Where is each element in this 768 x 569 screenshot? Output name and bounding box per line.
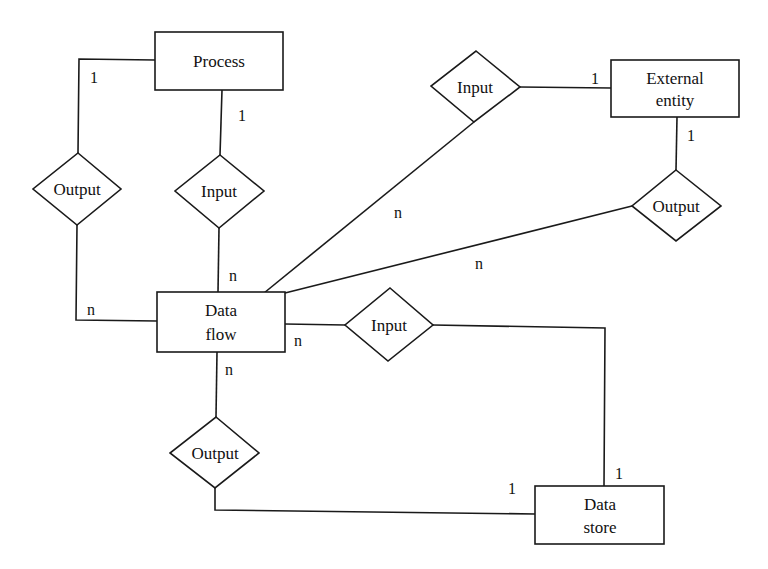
edges [76, 59, 677, 514]
cardinality-store-output-n: n [225, 361, 233, 378]
entity-label-line2: entity [656, 91, 695, 110]
cardinality-process-output-1: 1 [90, 69, 98, 86]
relationship-label: Input [371, 316, 407, 335]
relationship-store-output[interactable]: Output [170, 417, 259, 488]
cardinality-external-output-1: 1 [687, 127, 695, 144]
er-diagram: Process External entity Data flow Data s… [0, 0, 768, 569]
entity-label-line1: Data [584, 495, 617, 514]
entity-label-line2: flow [205, 325, 237, 344]
entity-data-flow[interactable]: Data flow [157, 292, 285, 352]
edge-input-mid-datastore [433, 325, 605, 486]
edge-dataflow-input-mid [285, 324, 345, 325]
cardinality-store-input-1: 1 [615, 465, 623, 482]
relationship-external-output[interactable]: Output [632, 170, 721, 241]
entity-external-entity[interactable]: External entity [611, 60, 739, 117]
relationship-label: Input [201, 182, 237, 201]
cardinality-process-input-1: 1 [238, 107, 246, 124]
relationship-process-input[interactable]: Input [175, 155, 264, 228]
relationship-label: Input [457, 78, 493, 97]
cardinality-external-input-n: n [394, 204, 402, 221]
entity-label: Process [193, 52, 245, 71]
relationship-label: Output [53, 180, 101, 199]
cardinality-store-output-1: 1 [508, 480, 516, 497]
cardinality-store-input-n: n [294, 332, 302, 349]
entity-label-line2: store [583, 518, 616, 537]
edge-external-output-right [676, 117, 677, 170]
cardinality-process-output-n: n [87, 301, 95, 318]
edge-external-input-top [520, 87, 611, 88]
relationship-label: Output [191, 444, 239, 463]
edge-dataflow-output-bottom [216, 352, 217, 417]
entity-label-line1: Data [205, 301, 238, 320]
entity-label-line1: External [646, 69, 704, 88]
relationship-store-input[interactable]: Input [345, 288, 433, 361]
edge-input-dataflow [218, 228, 219, 292]
relationship-external-input[interactable]: Input [431, 51, 520, 122]
entity-data-store[interactable]: Data store [535, 486, 664, 544]
relationship-label: Output [652, 197, 700, 216]
cardinality-process-input-n: n [229, 267, 237, 284]
entity-process[interactable]: Process [155, 32, 283, 90]
cardinality-external-output-n: n [475, 255, 483, 272]
edge-input-top-dataflow [264, 122, 474, 293]
relationship-process-output[interactable]: Output [33, 153, 121, 225]
cardinality-external-input-1: 1 [591, 70, 599, 87]
edge-output-right-dataflow [285, 206, 632, 293]
edge-process-input [220, 90, 222, 155]
edge-output-bottom-datastore [215, 488, 535, 514]
